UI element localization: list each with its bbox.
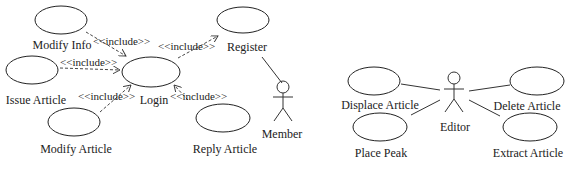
use-case-place-peak[interactable] [353,113,407,141]
use-case-label: Modify Article [40,142,112,156]
use-case-displace-article[interactable] [348,67,400,95]
use-case-login[interactable] [122,57,180,87]
use-case-label: Reply Article [193,142,257,156]
use-case-modify-info[interactable] [35,6,87,34]
association-line [262,57,282,83]
include-stereotype: <<include>> [170,90,227,102]
use-case-extract-article[interactable] [503,113,557,141]
member-diagram: Modify Info Issue Article Modify Article… [6,6,302,156]
include-stereotype: <<include>> [60,56,117,68]
actor-label: Editor [440,120,470,134]
use-case-label: Displace Article [341,98,419,112]
include-stereotype: <<include>> [93,35,150,47]
use-case-register[interactable] [217,7,269,33]
association-line [469,85,510,91]
actor-label: Member [262,127,303,141]
actor-editor[interactable] [444,72,464,112]
editor-diagram: Displace Article Place Peak Delete Artic… [341,67,564,160]
include-arrow [60,68,120,70]
include-stereotype: <<include>> [78,90,135,102]
use-case-label: Login [140,93,169,107]
use-case-label: Delete Article [494,99,561,113]
use-case-label: Register [227,40,267,54]
use-case-label: Issue Article [6,93,66,107]
use-case-label: Modify Info [33,38,92,52]
use-case-issue-article[interactable] [6,56,58,84]
use-case-reply-article[interactable] [196,104,250,132]
actor-member[interactable] [273,81,293,121]
use-case-label: Extract Article [493,146,563,160]
use-case-modify-article[interactable] [48,108,100,136]
use-case-diagrams: Modify Info Issue Article Modify Article… [0,0,567,170]
include-stereotype: <<include>> [158,40,215,52]
use-case-delete-article[interactable] [510,67,564,95]
actor-head-icon [448,72,460,84]
association-line [401,84,440,90]
use-case-label: Place Peak [355,146,407,160]
actor-head-icon [277,81,289,93]
